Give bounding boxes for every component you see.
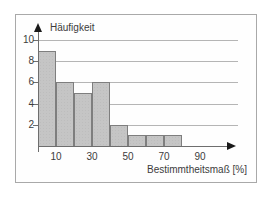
y-axis-line (38, 32, 39, 146)
histogram-bar (56, 82, 74, 147)
y-axis-arrow-icon (34, 23, 42, 32)
x-axis-title: Bestimmtheitsmaß [%] (97, 164, 247, 176)
histogram-bar (74, 93, 92, 147)
x-axis-line (38, 146, 228, 147)
x-axis-arrow-icon (227, 142, 236, 150)
y-axis-title: Häufigkeit (50, 22, 94, 34)
histogram-bar (92, 82, 110, 147)
gridline-y8 (38, 61, 238, 62)
y-tick-label: 2 (12, 119, 34, 130)
x-tick-label: 50 (116, 151, 140, 162)
y-tick-label: 8 (12, 55, 34, 66)
x-origin-tick (38, 146, 39, 152)
x-tick-label: 90 (188, 151, 212, 162)
y-tick-label: 4 (12, 98, 34, 109)
y-tick-label: 6 (12, 76, 34, 87)
histogram-bar (110, 125, 128, 147)
x-tick-label: 70 (152, 151, 176, 162)
x-tick-label: 30 (80, 151, 104, 162)
y-tick-label: 10 (12, 34, 34, 45)
x-tick-label: 10 (44, 151, 68, 162)
histogram-bar (38, 51, 56, 147)
gridline-y10 (38, 40, 238, 41)
